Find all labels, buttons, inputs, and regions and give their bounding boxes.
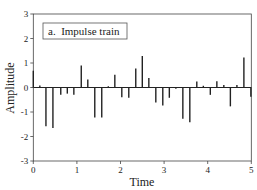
x-tick-label: 5 (249, 165, 254, 175)
x-tick-label: 4 (205, 165, 210, 175)
y-tick-label: -2 (21, 132, 29, 142)
x-tick-label: 1 (75, 165, 80, 175)
x-axis: 012345 (31, 161, 254, 175)
y-tick-label: 3 (24, 9, 29, 19)
x-tick-label: 3 (162, 165, 167, 175)
x-tick-label: 2 (118, 165, 123, 175)
impulse-train-chart: -3-2-10123 012345 a. Impulse train Time … (0, 0, 257, 190)
y-axis: -3-2-10123 (21, 9, 34, 166)
y-tick-label: -1 (21, 107, 29, 117)
chart-canvas: -3-2-10123 012345 a. Impulse train Time … (0, 0, 257, 190)
legend: a. Impulse train (43, 23, 127, 39)
x-tick-label: 0 (31, 165, 36, 175)
y-tick-label: 0 (24, 83, 29, 93)
impulse-stems (33, 56, 251, 128)
x-axis-label: Time (130, 175, 155, 189)
y-axis-label: Amplitude (3, 62, 17, 113)
legend-label: a. Impulse train (48, 25, 120, 37)
y-tick-label: -3 (21, 156, 29, 166)
y-tick-label: 1 (24, 58, 29, 68)
y-tick-label: 2 (24, 34, 29, 44)
